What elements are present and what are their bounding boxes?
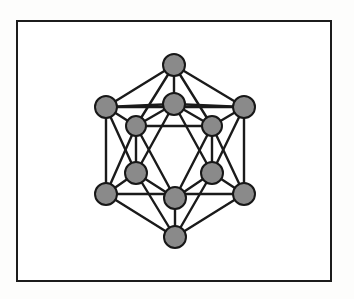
- graph-node-bottom-apex: [164, 226, 186, 248]
- graph-node-lower-inner-center: [164, 187, 186, 209]
- graph-node-lower-outer-left: [95, 183, 117, 205]
- figure-root: Icosahedron ball-and-stick cluster diagr…: [0, 0, 354, 299]
- graph-node-upper-outer-right: [233, 96, 255, 118]
- graph-node-upper-inner-center: [163, 93, 185, 115]
- graph-node-upper-inner-right: [202, 116, 222, 136]
- graph-node-upper-outer-left: [95, 96, 117, 118]
- graph-node-top-apex: [163, 54, 185, 76]
- graph-node-upper-inner-left: [126, 116, 146, 136]
- graph-node-lower-inner-left: [125, 162, 147, 184]
- icosahedron-diagram: [0, 0, 354, 299]
- graph-node-lower-outer-right: [233, 183, 255, 205]
- graph-node-lower-inner-right: [201, 162, 223, 184]
